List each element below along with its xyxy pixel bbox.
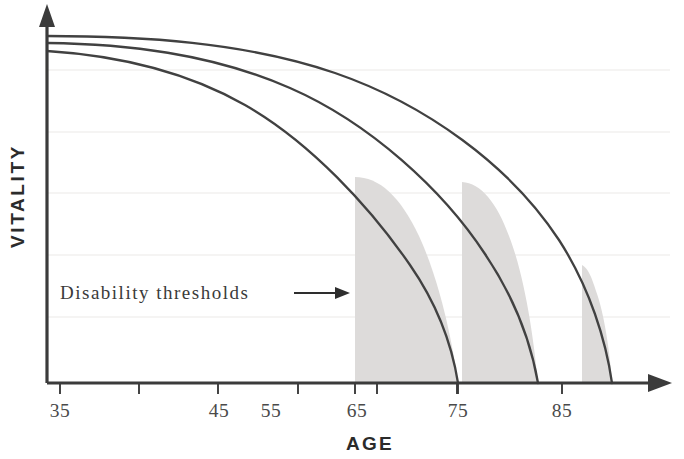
y-axis-arrow-icon bbox=[39, 4, 55, 27]
chart-canvas: 35 45 55 65 75 85 AGE VITALITY Disabilit… bbox=[0, 0, 684, 459]
vitality-age-chart: 35 45 55 65 75 85 AGE VITALITY Disabilit… bbox=[0, 0, 684, 459]
annotation-label: Disability thresholds bbox=[60, 282, 249, 303]
x-tick-marks bbox=[60, 383, 562, 394]
x-tick-label-45: 45 bbox=[209, 400, 230, 421]
disability-band-3 bbox=[582, 265, 612, 383]
x-tick-label-55: 55 bbox=[261, 400, 282, 421]
x-tick-label-85: 85 bbox=[552, 400, 573, 421]
annotation-arrow-head-icon bbox=[335, 287, 350, 299]
x-tick-label-65: 65 bbox=[347, 400, 368, 421]
x-tick-labels: 35 45 55 65 75 85 bbox=[50, 400, 573, 421]
y-axis-title: VITALITY bbox=[7, 144, 28, 248]
x-tick-label-35: 35 bbox=[50, 400, 71, 421]
disability-threshold-bands bbox=[355, 177, 612, 383]
x-axis-title: AGE bbox=[346, 433, 394, 454]
x-axis-arrow-icon bbox=[648, 374, 672, 392]
disability-band-2 bbox=[462, 182, 538, 383]
x-tick-label-75: 75 bbox=[448, 400, 469, 421]
disability-thresholds-annotation: Disability thresholds bbox=[60, 282, 350, 303]
disability-band-1 bbox=[355, 177, 458, 383]
